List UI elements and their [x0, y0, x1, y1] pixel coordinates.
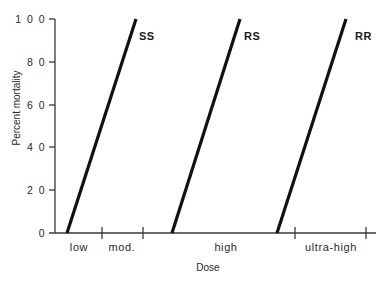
- series-line-rr: [277, 19, 346, 233]
- x-category-mod: mod.: [109, 241, 136, 253]
- series-label-ss: SS: [139, 30, 155, 42]
- series-label-rr: RR: [355, 30, 372, 42]
- x-category-ultra-high: ultra-high: [305, 241, 357, 253]
- y-tick-40: 4 0: [27, 141, 46, 153]
- x-category-high: high: [214, 241, 237, 253]
- x-axis-title: Dose: [196, 262, 220, 273]
- y-axis-title: Percent mortality: [11, 70, 22, 145]
- series-line-rs: [172, 19, 240, 233]
- y-tick-60: 6 0: [27, 99, 46, 111]
- chart: 1 0 0 8 0 6 0 4 0 2 0 0 low mod. high ul…: [0, 0, 386, 281]
- series-label-rs: RS: [244, 30, 260, 42]
- y-ticks: [49, 19, 55, 190]
- y-tick-100: 1 0 0: [15, 13, 46, 25]
- y-tick-80: 8 0: [27, 56, 46, 68]
- y-tick-20: 2 0: [27, 184, 46, 196]
- y-tick-0: 0: [39, 227, 46, 239]
- x-category-low: low: [70, 241, 88, 253]
- series-line-ss: [67, 19, 136, 233]
